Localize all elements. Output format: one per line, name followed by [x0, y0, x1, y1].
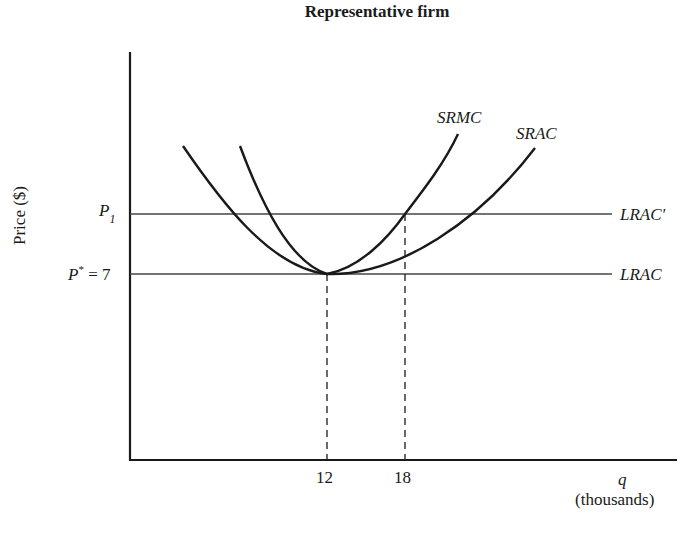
srac-curve	[183, 146, 535, 274]
x-tick-18: 18	[394, 468, 411, 488]
y-axis-label: Price ($)	[10, 186, 30, 245]
lrac-label: LRAC	[620, 265, 662, 285]
pstar-main: P	[68, 265, 78, 284]
p1-tick-label: P1	[99, 201, 115, 224]
p1-main: P	[99, 201, 109, 220]
x-axis-unit: (thousands)	[575, 490, 654, 510]
pstar-tick-label: P* = 7	[68, 263, 110, 285]
srmc-curve	[240, 134, 458, 274]
srac-label: SRAC	[516, 124, 557, 144]
p1-subscript: 1	[109, 212, 115, 226]
x-axis-label: q	[618, 470, 627, 490]
lrac-prime-label: LRAC′	[620, 205, 665, 225]
srmc-label: SRMC	[437, 108, 481, 128]
pstar-rest: = 7	[84, 265, 111, 284]
x-tick-12: 12	[316, 468, 333, 488]
